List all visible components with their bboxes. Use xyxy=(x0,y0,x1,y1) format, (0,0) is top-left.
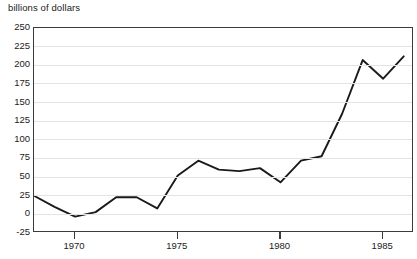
y-axis-tick-label: 125 xyxy=(2,115,30,125)
x-axis-tick-label: 1985 xyxy=(372,241,393,251)
y-axis-tick-label: 75 xyxy=(2,153,30,163)
x-axis-tick-label: 1980 xyxy=(269,241,290,251)
y-axis-tick-label: 250 xyxy=(2,22,30,32)
y-axis-tick-label: -25 xyxy=(2,227,30,237)
y-axis-tick-label: 25 xyxy=(2,190,30,200)
y-axis-tick-label: 175 xyxy=(2,78,30,88)
y-axis-tick-label: 0 xyxy=(2,209,30,219)
gridline xyxy=(34,65,412,66)
x-axis-tick-mark xyxy=(177,232,178,239)
gridline xyxy=(34,102,412,103)
y-axis-tick-label: 150 xyxy=(2,97,30,107)
gridline xyxy=(34,158,412,159)
gridline xyxy=(34,46,412,47)
x-axis-tick-mark xyxy=(74,232,75,239)
x-axis-tick-label: 1970 xyxy=(64,241,85,251)
y-axis-tick-label: 200 xyxy=(2,60,30,70)
series-svg xyxy=(34,28,413,232)
gridline xyxy=(34,195,412,196)
x-axis-tick-label: 1975 xyxy=(166,241,187,251)
gridline xyxy=(34,177,412,178)
chart-container: billions of dollars 25022520017515012510… xyxy=(0,0,417,259)
plot-area xyxy=(33,27,413,232)
x-axis-tick-mark xyxy=(279,232,280,239)
gridline xyxy=(34,139,412,140)
gridline xyxy=(34,121,412,122)
y-axis: 2502252001751501251007550250-25 xyxy=(0,0,30,259)
y-axis-tick-label: 100 xyxy=(2,134,30,144)
gridline xyxy=(34,83,412,84)
y-axis-tick-label: 225 xyxy=(2,41,30,51)
x-axis-tick-mark xyxy=(382,232,383,239)
gridline xyxy=(34,214,412,215)
data-series-line xyxy=(34,56,404,216)
y-axis-tick-label: 50 xyxy=(2,171,30,181)
